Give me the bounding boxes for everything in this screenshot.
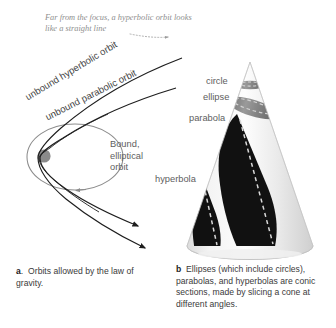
conic-sections-figure: Far from the focus, a hyperbolic orbit l… <box>0 0 336 328</box>
annotation-leader-line <box>130 34 168 37</box>
label-hyperbola: hyperbola <box>155 174 196 184</box>
label-circle: circle <box>206 76 228 86</box>
caption-b: b Ellipses (which include circles), para… <box>176 264 332 310</box>
circle-section <box>235 81 266 89</box>
cone-shadow <box>198 249 302 259</box>
caption-a-sep: . <box>21 266 28 276</box>
caption-b-text: Ellipses (which include circles), parabo… <box>176 264 315 309</box>
caption-a-text: Orbits allowed by the law of gravity. <box>16 266 134 288</box>
figure-captions: a. Orbits allowed by the law of gravity.… <box>0 262 336 328</box>
label-bound-line1: Bound, <box>110 139 143 151</box>
label-parabola: parabola <box>189 113 225 123</box>
label-ellipse: ellipse <box>203 92 229 102</box>
label-bound-line2: elliptical <box>110 151 143 163</box>
caption-a: a. Orbits allowed by the law of gravity. <box>16 266 154 289</box>
hyperbolic-annotation: Far from the focus, a hyperbolic orbit l… <box>45 12 195 34</box>
label-bound-line3: orbit <box>110 162 143 174</box>
orbit-diagram <box>27 34 182 248</box>
label-bound-elliptical-orbit: Bound, elliptical orbit <box>110 139 143 174</box>
